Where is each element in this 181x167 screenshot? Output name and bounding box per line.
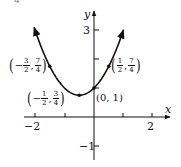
x-axis-label: x [165,104,171,115]
point-vertex [77,93,81,97]
tick-label-2: 2 [147,121,154,132]
tick-label-neg1: −1 [79,141,95,152]
label-point-half: ( 12 , 74 ) [110,57,141,74]
point-neg3half [48,64,52,68]
tick-label-neg2: −2 [24,121,40,132]
tick-label-3: 3 [83,25,90,36]
label-point-y-intercept: (0, 1) [96,93,123,103]
point-y-intercept [92,86,96,90]
label-point-neg3half: ( − 32 , 74 ) [8,57,48,74]
label-point-vertex: ( − 12 , 34 ) [26,90,66,107]
y-axis-label: y [84,9,90,20]
